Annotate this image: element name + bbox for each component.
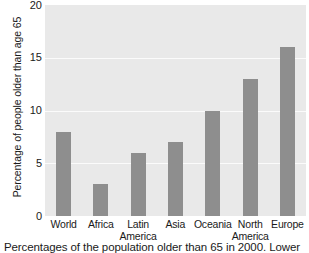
x-tick-label-line: World [45, 218, 82, 230]
bar-slot [231, 5, 268, 216]
y-tick-label-15: 15 [20, 52, 42, 63]
figure-caption: Percentages of the population older than… [4, 241, 309, 253]
bar-slot [269, 5, 306, 216]
bar-slot [194, 5, 231, 216]
bar-series [45, 5, 306, 216]
plot-area [45, 5, 306, 216]
x-tick-label-line: Europe [269, 218, 306, 230]
x-tick-label-line: Oceania [194, 218, 232, 230]
bar-slot [45, 5, 82, 216]
y-axis-tick-labels: 05101520 [20, 0, 42, 221]
bar-slot [120, 5, 157, 216]
bar-slot [157, 5, 194, 216]
y-tick-label-5: 5 [20, 158, 42, 169]
x-tick-label-line: Africa [82, 218, 119, 230]
bar-world [56, 132, 71, 216]
bar-asia [168, 142, 183, 216]
bar-africa [93, 184, 108, 216]
bar-latin-america [131, 153, 146, 216]
y-tick-label-0: 0 [20, 211, 42, 222]
y-tick-label-10: 10 [20, 105, 42, 116]
figure: Percentage of people older than age 65 0… [0, 0, 309, 253]
bar-oceania [205, 111, 220, 217]
bar-slot [82, 5, 119, 216]
y-tick-label-20: 20 [20, 0, 42, 11]
x-tick-label-line: North [232, 218, 269, 230]
bar-north-america [243, 79, 258, 216]
bar-europe [280, 47, 295, 216]
x-tick-label-line: Asia [157, 218, 194, 230]
x-tick-label-line: Latin [119, 218, 156, 230]
